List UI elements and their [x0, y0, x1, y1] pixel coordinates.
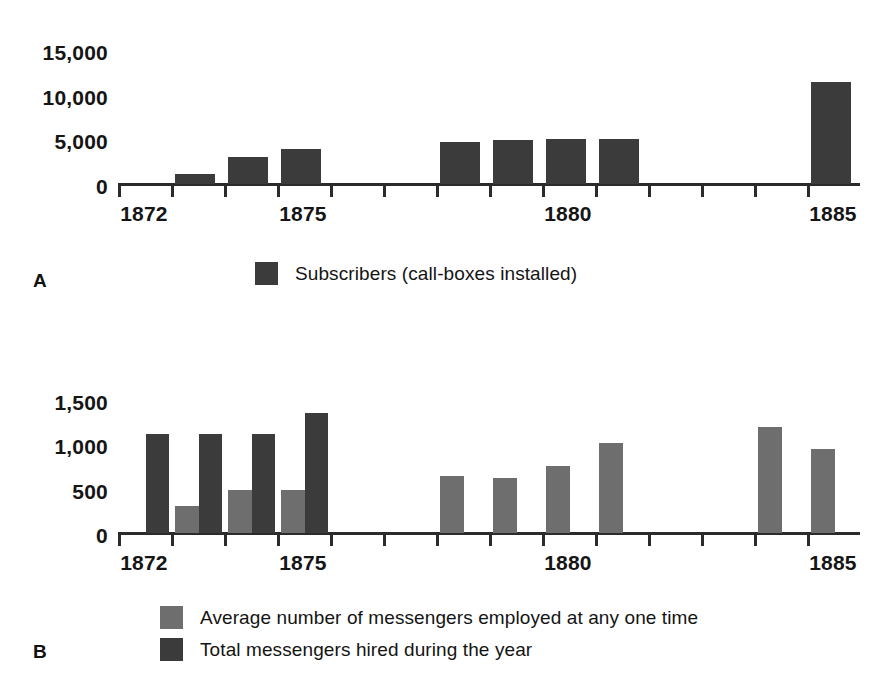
x-axis-tick — [171, 533, 174, 546]
y-tick-label: 1,500 — [54, 392, 108, 413]
y-tick-label: 0 — [96, 176, 108, 197]
y-tick-label: 500 — [72, 480, 108, 501]
y-tick-label: 5,000 — [54, 131, 108, 152]
x-axis-tick — [701, 533, 704, 546]
bar-panel-b-1885-s0 — [811, 449, 835, 533]
x-tick-label: 1880 — [544, 202, 592, 226]
x-tick-label: 1885 — [809, 551, 857, 575]
y-axis-labels-a: 05,00010,00015,000 — [0, 0, 108, 320]
legend-swatch-total-messengers — [160, 638, 183, 661]
bar-panel-a-1878-s0 — [440, 142, 480, 184]
legend-b-total: Total messengers hired during the year — [160, 638, 532, 661]
legend-label-average-messengers: Average number of messengers employed at… — [200, 607, 698, 629]
bar-panel-b-1880-s0 — [546, 466, 570, 533]
y-tick-label: 0 — [96, 525, 108, 546]
legend-swatch-subscribers — [255, 262, 278, 285]
y-tick-label: 10,000 — [43, 86, 108, 107]
y-axis-labels-b: 05001,0001,500 — [0, 352, 108, 683]
x-axis-tick — [330, 533, 333, 546]
bar-panel-b-1878-s0 — [440, 476, 464, 533]
panel-letter-b: B — [33, 641, 47, 663]
x-axis-tick — [118, 184, 121, 197]
bar-panel-b-1875-s1 — [305, 413, 329, 533]
x-axis-tick — [489, 533, 492, 546]
bar-panel-a-1873-s0 — [175, 174, 215, 184]
x-axis-tick — [383, 533, 386, 546]
bar-panel-b-1874-s0 — [228, 490, 252, 533]
bar-panel-b-1872-s1 — [146, 434, 170, 533]
bar-panel-a-1880-s0 — [546, 139, 586, 184]
x-axis-tick — [383, 184, 386, 197]
x-axis-tick — [754, 184, 757, 197]
x-axis-tick — [330, 184, 333, 197]
bar-panel-a-1881-s0 — [599, 139, 639, 184]
bar-panel-b-1879-s0 — [493, 478, 517, 533]
legend-b-average: Average number of messengers employed at… — [160, 606, 698, 629]
x-axis-tick — [436, 533, 439, 546]
x-axis-tick — [118, 533, 121, 546]
x-tick-label: 1875 — [279, 202, 327, 226]
legend-a: Subscribers (call-boxes installed) — [255, 262, 577, 285]
bar-panel-b-1881-s0 — [599, 443, 623, 533]
x-axis-tick — [754, 533, 757, 546]
plot-area-b: 1872187518801885 — [118, 402, 860, 535]
y-tick-label: 1,000 — [54, 436, 108, 457]
x-axis-tick — [224, 184, 227, 197]
chart-panel-a: 05,00010,00015,000 1872187518801885 A Su… — [0, 0, 887, 320]
bar-panel-b-1875-s0 — [281, 490, 305, 533]
legend-swatch-average-messengers — [160, 606, 183, 629]
bar-panel-a-1879-s0 — [493, 140, 533, 184]
x-axis-tick — [595, 184, 598, 197]
x-axis-tick — [648, 184, 651, 197]
bar-panel-b-1874-s1 — [252, 434, 276, 533]
legend-label-total-messengers: Total messengers hired during the year — [200, 639, 532, 661]
x-axis-tick — [436, 184, 439, 197]
bar-panel-b-1873-s0 — [175, 506, 199, 533]
bar-panel-a-1885-s0 — [811, 82, 851, 184]
x-axis-tick — [489, 184, 492, 197]
bar-panel-b-1884-s0 — [758, 427, 782, 533]
bar-panel-b-1873-s1 — [199, 434, 223, 533]
x-tick-label: 1875 — [279, 551, 327, 575]
x-axis-tick — [542, 533, 545, 546]
y-tick-label: 15,000 — [43, 42, 108, 63]
bar-panel-a-1875-s0 — [281, 149, 321, 184]
x-axis-tick — [277, 533, 280, 546]
x-axis-tick — [648, 533, 651, 546]
x-tick-label: 1880 — [544, 551, 592, 575]
x-tick-label: 1872 — [120, 202, 168, 226]
x-tick-label: 1872 — [120, 551, 168, 575]
plot-area-a: 1872187518801885 — [118, 52, 860, 186]
x-axis-tick — [542, 184, 545, 197]
x-tick-label: 1885 — [809, 202, 857, 226]
x-axis-tick — [171, 184, 174, 197]
chart-panel-b: 05001,0001,500 1872187518801885 — [0, 352, 887, 683]
x-axis-tick — [595, 533, 598, 546]
x-axis-tick — [224, 533, 227, 546]
panel-letter-a: A — [33, 270, 47, 292]
x-axis-tick — [807, 533, 810, 546]
x-axis-tick — [277, 184, 280, 197]
legend-label-subscribers: Subscribers (call-boxes installed) — [295, 263, 577, 285]
x-axis-tick — [807, 184, 810, 197]
bar-panel-a-1874-s0 — [228, 157, 268, 184]
x-axis-tick — [701, 184, 704, 197]
